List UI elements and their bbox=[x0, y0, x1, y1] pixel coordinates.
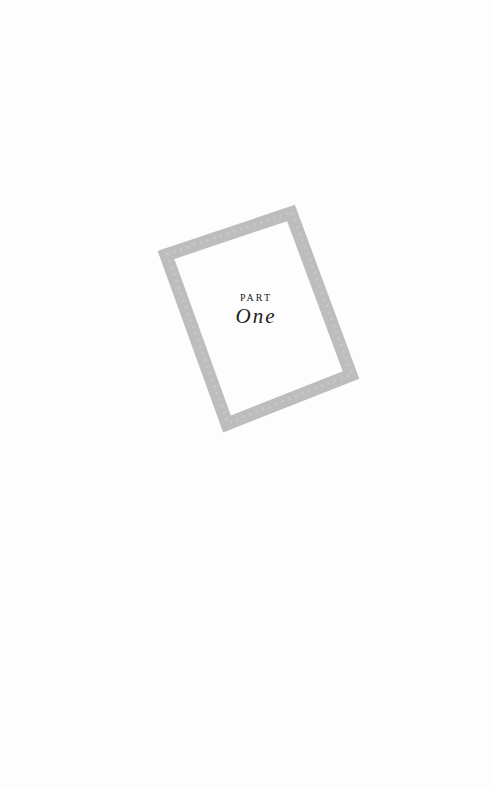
part-label: PART bbox=[213, 292, 299, 303]
part-title: One bbox=[206, 304, 306, 329]
brush-frame-icon bbox=[0, 0, 494, 788]
